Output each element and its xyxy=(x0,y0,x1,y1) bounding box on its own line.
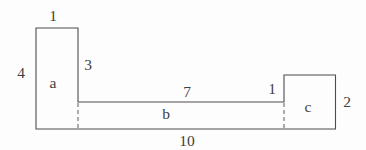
composite-shape-svg: 1 4 3 a 7 1 2 c b 10 xyxy=(0,0,366,150)
region-label-b: b xyxy=(162,105,170,122)
region-label-a: a xyxy=(50,74,57,91)
dim-label-c-width: 1 xyxy=(268,80,276,97)
dim-label-a-width: 1 xyxy=(49,7,57,24)
geometry-figure: 1 4 3 a 7 1 2 c b 10 xyxy=(0,0,366,150)
region-label-c: c xyxy=(305,98,312,115)
shape-outline xyxy=(36,28,336,129)
dim-label-strip-top: 7 xyxy=(183,83,191,100)
dim-label-c-height: 2 xyxy=(343,93,351,110)
dim-label-total-bottom: 10 xyxy=(179,132,195,149)
dim-label-a-right: 3 xyxy=(84,56,92,73)
dim-label-a-height: 4 xyxy=(17,64,25,81)
